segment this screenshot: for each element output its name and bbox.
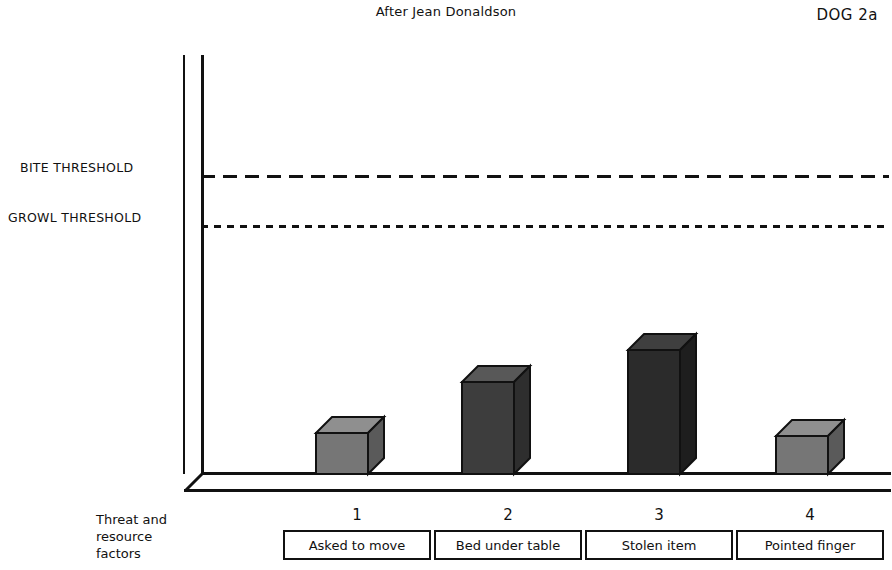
x-axis-front-line: [184, 489, 891, 492]
x-axis-caption-line-2: resource: [96, 528, 216, 545]
bar-front-face: [462, 382, 514, 474]
bite-threshold-label: BITE THRESHOLD: [20, 160, 133, 175]
x-axis-caption-line-1: Threat and: [96, 511, 216, 528]
bar-3d-shape: [628, 334, 696, 474]
bar-2[interactable]: [462, 366, 530, 474]
bar-1[interactable]: [316, 417, 384, 474]
x-tick-1: 1: [283, 506, 431, 524]
category-box-1[interactable]: Asked to move: [283, 530, 431, 560]
x-axis-caption-line-3: factors: [96, 545, 216, 562]
bar-3d-shape: [462, 366, 530, 474]
y-axis-front-line: [201, 55, 204, 474]
bar-front-face: [628, 350, 680, 474]
x-tick-4: 4: [736, 506, 884, 524]
bar-side-face: [680, 334, 696, 474]
bar-4[interactable]: [776, 420, 844, 474]
growl-threshold-label: GROWL THRESHOLD: [8, 210, 141, 225]
growl-threshold-line: [201, 225, 889, 228]
category-box-2[interactable]: Bed under table: [434, 530, 582, 560]
bar-3[interactable]: [628, 334, 696, 474]
bar-3d-shape: [316, 417, 384, 474]
category-label-2: Bed under table: [456, 538, 560, 553]
bar-front-face: [776, 436, 828, 474]
chart-canvas: After Jean Donaldson DOG 2a BITE THRESHO…: [0, 0, 892, 570]
chart-title: After Jean Donaldson: [0, 4, 892, 19]
category-label-4: Pointed finger: [765, 538, 856, 553]
bite-threshold-line: [201, 175, 889, 178]
axis-corner-diagonal: [181, 470, 207, 494]
category-label-3: Stolen item: [622, 538, 697, 553]
x-tick-2: 2: [434, 506, 582, 524]
bar-front-face: [316, 433, 368, 474]
category-label-1: Asked to move: [309, 538, 406, 553]
y-axis-back-line: [183, 55, 185, 474]
x-axis-caption: Threat and resource factors: [96, 511, 216, 562]
category-box-3[interactable]: Stolen item: [585, 530, 733, 560]
bar-3d-shape: [776, 420, 844, 474]
chart-code-label: DOG 2a: [817, 6, 878, 24]
x-tick-3: 3: [585, 506, 733, 524]
bar-side-face: [514, 366, 530, 474]
category-box-4[interactable]: Pointed finger: [736, 530, 884, 560]
